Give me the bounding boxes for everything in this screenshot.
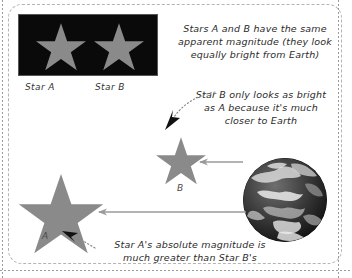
note-line: equally bright from Earth) bbox=[166, 48, 344, 61]
night-sky-panel bbox=[18, 14, 158, 76]
scene-star-a-icon bbox=[17, 172, 105, 256]
page-edge-rule-left bbox=[2, 0, 3, 278]
star-b-distance-note: Star B only looks as bright as A because… bbox=[178, 88, 344, 127]
note-line: Star A's absolute magnitude is bbox=[90, 238, 290, 251]
panel-caption-star-a: Star A bbox=[25, 82, 55, 92]
scene-star-b-icon bbox=[155, 136, 207, 186]
scene-star-a-label: A bbox=[42, 231, 48, 241]
earth-texture bbox=[243, 158, 327, 242]
diagram-canvas: Star A Star B Stars A and B have the sam… bbox=[0, 0, 352, 278]
note-line: Star B only looks as bright bbox=[178, 88, 344, 101]
panel-caption-star-b: Star B bbox=[95, 82, 125, 92]
note-line: closer to Earth bbox=[178, 114, 344, 127]
panel-star-b-icon bbox=[93, 22, 145, 72]
note-line: apparent magnitude (they look bbox=[166, 35, 344, 48]
earth-globe-icon bbox=[243, 158, 327, 242]
note-line: Stars A and B have the same bbox=[166, 22, 344, 35]
star-a-absolute-magnitude-note: Star A's absolute magnitude is much grea… bbox=[90, 238, 290, 264]
scene-star-b-label: B bbox=[177, 183, 183, 193]
apparent-magnitude-note: Stars A and B have the same apparent mag… bbox=[166, 22, 344, 61]
note-line: as A because it's much bbox=[178, 101, 344, 114]
panel-star-a-icon bbox=[35, 22, 87, 72]
page-edge-rule-bottom bbox=[0, 270, 352, 271]
note-line: much greater than Star B's bbox=[90, 251, 290, 264]
